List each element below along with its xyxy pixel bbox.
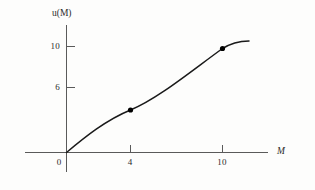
y-tick-label-10-text: 10	[51, 41, 60, 51]
x-tick-label-0-text: 0	[57, 157, 62, 167]
utility-curve-figure: u(M) M 10 6 0 4 10	[0, 0, 315, 190]
y-tick-label-6-text: 6	[55, 82, 60, 92]
y-tick-label-10: 10	[38, 42, 60, 51]
y-tick-label-6: 6	[38, 83, 60, 92]
x-tick-label-4: 4	[128, 158, 133, 167]
x-tick-label-10: 10	[217, 158, 226, 167]
y-axis-title-text: u(M)	[52, 8, 72, 18]
y-axis-title: u(M)	[52, 9, 72, 19]
x-axis-title: M	[277, 147, 285, 157]
plot-area	[0, 0, 315, 190]
utility-curve	[67, 41, 250, 153]
x-tick-label-10-text: 10	[217, 157, 226, 167]
x-tick-label-4-text: 4	[128, 157, 133, 167]
data-point-marker	[128, 107, 133, 112]
x-axis-title-text: M	[277, 146, 285, 156]
data-point-marker	[220, 46, 225, 51]
x-tick-label-0: 0	[57, 158, 62, 167]
